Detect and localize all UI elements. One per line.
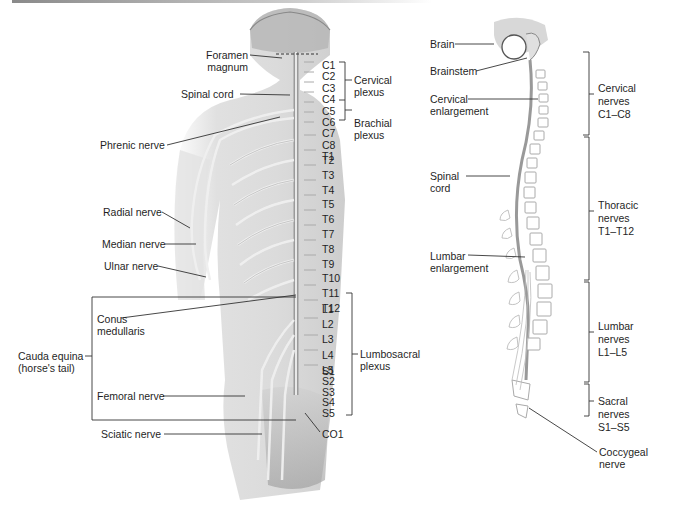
label-radial-nerve: Radial nerve: [103, 206, 162, 218]
label-line: Coccygeal: [599, 446, 648, 458]
label-line: enlargement: [430, 105, 488, 117]
label-line: nerves: [598, 408, 630, 421]
label-brachial-plexus: Brachial plexus: [354, 117, 392, 141]
segment-l3: L3: [322, 332, 334, 347]
label-median-nerve: Median nerve: [102, 238, 166, 250]
lateral-spine: [494, 18, 552, 418]
label-lumbar-nerves: Lumbar nerves L1–L5: [598, 320, 634, 359]
label-co1: CO1: [322, 428, 344, 440]
label-thoracic-nerves: Thoracic nerves T1–T12: [598, 199, 638, 238]
segment-l4: L4: [322, 348, 334, 363]
label-sciatic-nerve: Sciatic nerve: [101, 428, 161, 440]
label-cervical-plexus: Cervical plexus: [354, 74, 392, 98]
segment-t4: T4: [322, 183, 340, 198]
segment-list-thoracic: T2 T3 T4 T5 T6 T7 T8 T9 T10 T11 T12: [322, 153, 340, 316]
label-line: C1–C8: [598, 108, 636, 121]
segment-list-sacral: S1 S2 S3 S4 S5: [322, 366, 335, 418]
segment-t8: T8: [322, 242, 340, 257]
label-line: Spinal: [430, 170, 459, 182]
label-line: nerve: [599, 458, 648, 470]
label-conus-medullaris: Conus medullaris: [97, 313, 145, 337]
label-line: plexus: [360, 360, 420, 372]
segment-t9: T9: [322, 257, 340, 272]
segment-t11: T11: [322, 286, 340, 301]
label-line: nerves: [598, 333, 634, 346]
label-line: medullaris: [97, 325, 145, 337]
label-line: cord: [430, 182, 459, 194]
back-figure: [173, 8, 345, 500]
segment-s5: S5: [322, 408, 335, 418]
label-line: (horse's tail): [18, 362, 83, 374]
label-line: Lumbosacral: [360, 348, 420, 360]
label-ulnar-nerve: Ulnar nerve: [104, 260, 158, 272]
label-line: plexus: [354, 86, 392, 98]
label-phrenic-nerve: Phrenic nerve: [100, 139, 165, 151]
label-line: enlargement: [430, 262, 488, 274]
label-lumbar-enlargement: Lumbar enlargement: [430, 250, 488, 274]
label-line: Thoracic: [598, 199, 638, 212]
segment-l1: L1: [322, 302, 334, 317]
label-line: Cauda equina: [18, 350, 83, 362]
label-line: S1–S5: [598, 421, 630, 434]
segment-t2: T2: [322, 153, 340, 168]
label-line: nerves: [598, 212, 638, 225]
label-spinal-cord: Spinal cord: [181, 88, 234, 100]
label-femoral-nerve: Femoral nerve: [97, 390, 165, 402]
label-foramen-magnum: Foramen magnum: [180, 49, 248, 73]
segment-t3: T3: [322, 168, 340, 183]
segment-t7: T7: [322, 227, 340, 242]
segment-t10: T10: [322, 271, 340, 286]
segment-c4: C4: [322, 94, 335, 105]
label-line: Cervical: [430, 93, 488, 105]
segment-l2: L2: [322, 317, 334, 332]
segment-t6: T6: [322, 212, 340, 227]
label-sacral-nerves: Sacral nerves S1–S5: [598, 395, 630, 434]
label-line: Lumbar: [598, 320, 634, 333]
label-line: Cervical: [354, 74, 392, 86]
segment-t5: T5: [322, 197, 340, 212]
label-lumbosacral-plexus: Lumbosacral plexus: [360, 348, 420, 372]
label-line: Brachial: [354, 117, 392, 129]
label-cauda-equina: Cauda equina (horse's tail): [18, 350, 83, 374]
label-cervical-enlargement: Cervical enlargement: [430, 93, 488, 117]
label-cervical-nerves: Cervical nerves C1–C8: [598, 82, 636, 121]
label-line: Sacral: [598, 395, 630, 408]
label-brain: Brain: [430, 38, 455, 50]
label-line: L1–L5: [598, 346, 634, 359]
label-line: Conus: [97, 313, 145, 325]
label-spinal-cord-right: Spinal cord: [430, 170, 459, 194]
label-line: T1–T12: [598, 225, 638, 238]
segment-list-cervical: C1 C2 C3 C4 C5 C6 C7 C8 T1: [322, 60, 335, 163]
label-line: Lumbar: [430, 250, 488, 262]
label-line: Cervical: [598, 82, 636, 95]
label-line: Foramen: [180, 49, 248, 61]
label-line: magnum: [180, 61, 248, 73]
label-coccygeal-nerve: Coccygeal nerve: [599, 446, 648, 470]
label-line: nerves: [598, 95, 636, 108]
label-line: plexus: [354, 129, 392, 141]
label-brainstem: Brainstem: [430, 65, 477, 77]
